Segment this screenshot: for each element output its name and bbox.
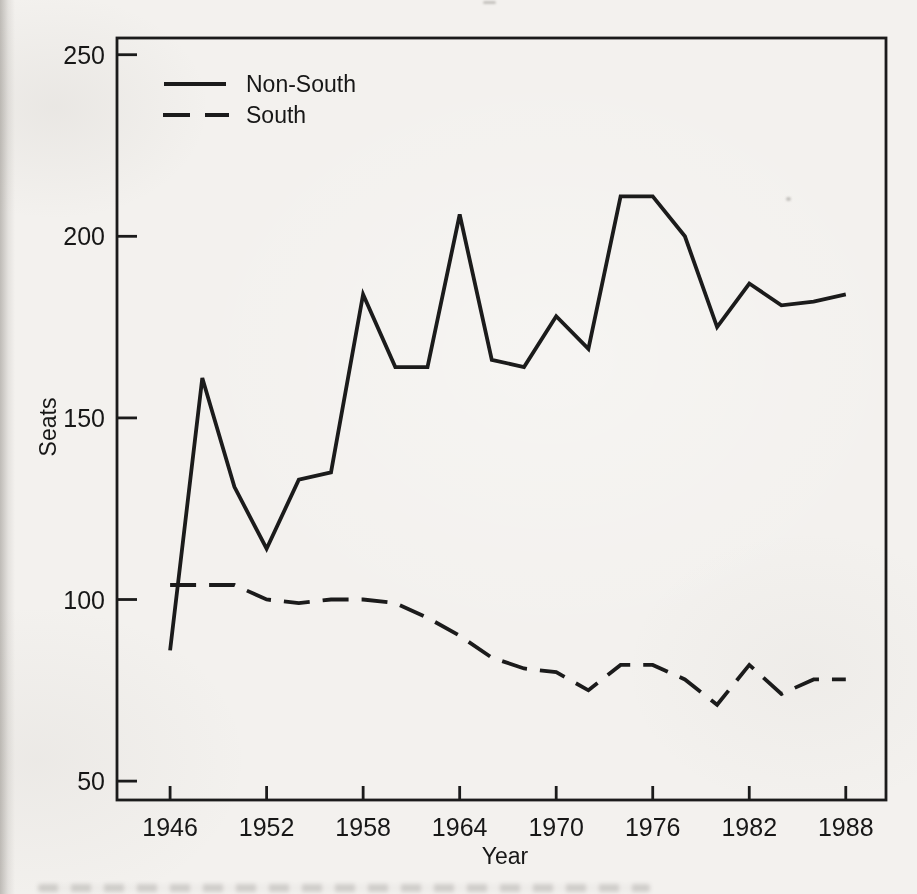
legend-south-label: South: [246, 102, 306, 128]
x-axis: 19461952195819641970197619821988: [142, 786, 873, 841]
x-axis-title: Year: [482, 843, 529, 869]
y-tick-label: 100: [63, 586, 105, 614]
x-tick-label: 1964: [432, 813, 488, 841]
south-line: [170, 585, 846, 705]
scan-speck: [483, 1, 496, 4]
x-tick-label: 1970: [528, 813, 584, 841]
non-south-line: [170, 196, 846, 650]
y-tick-label: 50: [77, 767, 105, 795]
x-tick-label: 1982: [721, 813, 777, 841]
y-tick-label: 200: [63, 222, 105, 250]
x-tick-label: 1988: [818, 813, 874, 841]
x-tick-label: 1946: [142, 813, 198, 841]
y-axis-title: Seats: [35, 398, 61, 457]
y-tick-label: 250: [63, 41, 105, 69]
y-tick-label: 150: [63, 404, 105, 432]
scan-edge-shadow: [0, 0, 15, 894]
scan-speck: [786, 197, 791, 201]
cropped-caption-smudge: [38, 884, 650, 892]
y-axis: 25020015010050: [63, 41, 137, 795]
x-tick-label: 1958: [335, 813, 391, 841]
legend: Non-South South: [163, 71, 356, 128]
x-tick-label: 1976: [625, 813, 681, 841]
seats-by-year-line-chart: 25020015010050 1946195219581964197019761…: [0, 0, 917, 894]
x-tick-label: 1952: [239, 813, 295, 841]
scanned-figure-page: 25020015010050 1946195219581964197019761…: [0, 0, 917, 894]
legend-non-south-label: Non-South: [246, 71, 356, 97]
